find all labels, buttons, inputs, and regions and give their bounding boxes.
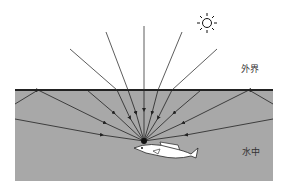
convergence-point — [141, 138, 147, 144]
light-rays-above — [70, 26, 217, 90]
refraction-diagram — [0, 0, 289, 191]
sun-icon — [197, 13, 217, 33]
label-outside: 外界 — [241, 62, 259, 75]
label-underwater: 水中 — [242, 145, 260, 158]
